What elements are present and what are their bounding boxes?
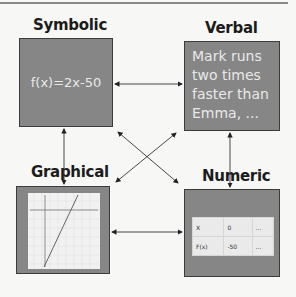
arrow-verbal-graphical [116,133,176,182]
arrow-symbolic-numeric [118,132,178,183]
arrow-connectors [0,0,296,297]
